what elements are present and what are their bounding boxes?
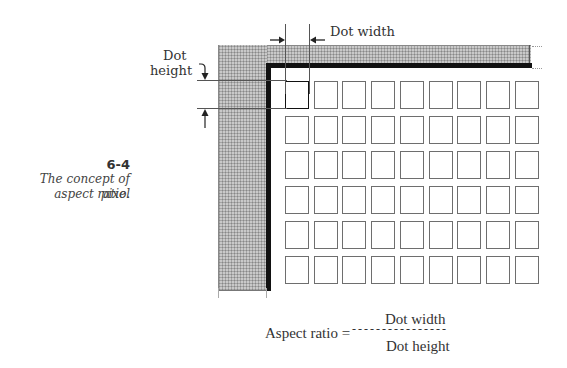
dot-height-arrow-up-icon bbox=[200, 108, 210, 130]
pixel-dot bbox=[371, 221, 395, 249]
pixel-dot bbox=[486, 256, 510, 284]
pixel-dot bbox=[457, 221, 481, 249]
pixel-dot bbox=[314, 256, 338, 284]
pixel-dot bbox=[285, 221, 309, 249]
pixel-dot bbox=[457, 81, 481, 109]
pixel-dot bbox=[515, 256, 539, 284]
pixel-dot bbox=[515, 81, 539, 109]
formula-lhs: Aspect ratio = bbox=[265, 325, 350, 342]
pixel-dot bbox=[429, 151, 453, 179]
pixel-dot bbox=[457, 256, 481, 284]
pixel-dot bbox=[429, 256, 453, 284]
pixel-dot bbox=[342, 186, 366, 214]
pixel-dot bbox=[314, 221, 338, 249]
pixel-dot bbox=[400, 221, 424, 249]
display-frame-top bbox=[266, 63, 532, 68]
pixel-dot bbox=[285, 256, 309, 284]
band-right-edge bbox=[529, 45, 530, 65]
band-right-dots-bottom bbox=[532, 68, 542, 69]
pixel-dot bbox=[429, 116, 453, 144]
pixel-dot bbox=[457, 151, 481, 179]
pixel-dot bbox=[515, 186, 539, 214]
pixel-dot bbox=[486, 186, 510, 214]
pixel-dot bbox=[371, 151, 395, 179]
dot-width-arrow-left-icon bbox=[270, 29, 285, 37]
band-right-dots-top bbox=[532, 46, 542, 47]
pixel-dot bbox=[371, 116, 395, 144]
dot-height-arrow-down-icon bbox=[199, 62, 249, 82]
pixel-dot bbox=[429, 81, 453, 109]
pixel-dot bbox=[400, 186, 424, 214]
band-bottom-tick-left bbox=[218, 288, 219, 298]
pixel-dot bbox=[285, 116, 309, 144]
pixel-dot bbox=[371, 186, 395, 214]
pixel-dot bbox=[457, 116, 481, 144]
pixel-dot bbox=[342, 221, 366, 249]
dot-width-label: Dot width bbox=[330, 24, 395, 39]
pixel-dot bbox=[429, 186, 453, 214]
pixel-dot bbox=[486, 151, 510, 179]
figure-caption-line2: aspect ratio. bbox=[10, 187, 130, 202]
pixel-dot bbox=[371, 256, 395, 284]
dot-width-arrow-right-icon bbox=[310, 29, 325, 37]
pixel-dot bbox=[314, 81, 338, 109]
pixel-dot bbox=[314, 116, 338, 144]
pixel-dot bbox=[515, 221, 539, 249]
pixel-dot bbox=[400, 116, 424, 144]
formula-denominator: Dot height bbox=[386, 338, 450, 355]
pixel-dot bbox=[486, 81, 510, 109]
figure-number: 6-4 bbox=[60, 157, 130, 172]
highlighted-pixel-dot bbox=[285, 81, 309, 109]
band-bottom-tick-right bbox=[266, 288, 267, 298]
dot-height-extension-bottom bbox=[197, 108, 287, 109]
pixel-dot bbox=[314, 151, 338, 179]
pixel-dot bbox=[515, 116, 539, 144]
pixel-dot bbox=[400, 256, 424, 284]
pixel-dot bbox=[457, 186, 481, 214]
pixel-dot bbox=[400, 151, 424, 179]
pixel-dot bbox=[285, 151, 309, 179]
pixel-dot bbox=[342, 151, 366, 179]
display-frame-left bbox=[266, 63, 271, 291]
pixel-dot bbox=[342, 116, 366, 144]
pixel-dot bbox=[285, 186, 309, 214]
dot-width-extension-left bbox=[285, 24, 286, 94]
dot-height-label-line1: Dot bbox=[163, 48, 186, 63]
dot-height-label-line2: height bbox=[150, 63, 192, 78]
pixel-dot bbox=[371, 81, 395, 109]
pixel-dot bbox=[515, 151, 539, 179]
pixel-dot bbox=[342, 81, 366, 109]
pixel-dot bbox=[314, 186, 338, 214]
pixel-dot bbox=[486, 116, 510, 144]
formula-dashes: - - - - - - - - - - - - - - - - bbox=[352, 322, 445, 337]
pixel-dot bbox=[400, 81, 424, 109]
pixel-dot bbox=[486, 221, 510, 249]
pixel-dot bbox=[429, 221, 453, 249]
pixel-dot bbox=[342, 256, 366, 284]
